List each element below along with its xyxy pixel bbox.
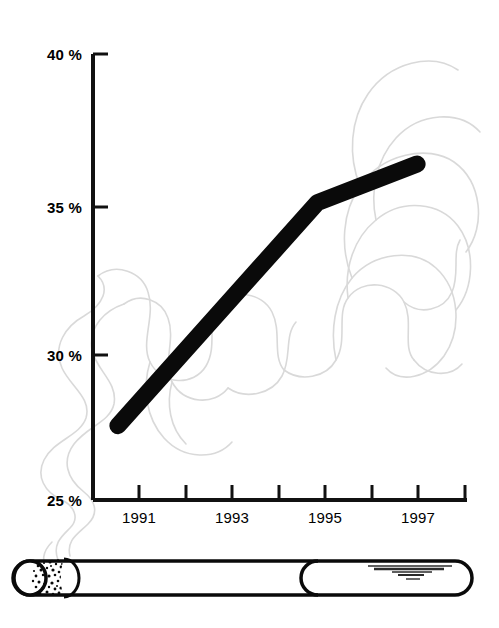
cigarette-illustration [0, 0, 499, 628]
chart-figure: 40 % 35 % 30 % 25 % 1991 1993 1995 1997 [0, 0, 499, 628]
cigarette-tip-ellipse [14, 561, 46, 595]
